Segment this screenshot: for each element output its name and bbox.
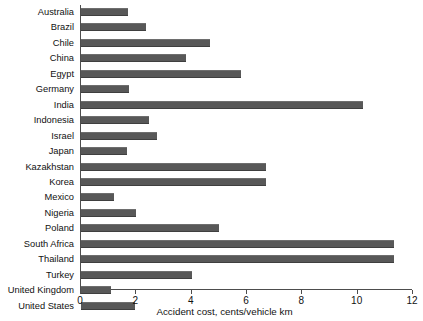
bar bbox=[81, 240, 394, 248]
category-label: Turkey bbox=[46, 268, 74, 283]
bar-row: Brazil bbox=[0, 20, 423, 35]
bar-row: Chile bbox=[0, 36, 423, 51]
bar-row: Korea bbox=[0, 175, 423, 190]
bar bbox=[81, 286, 111, 294]
x-tick bbox=[412, 290, 413, 294]
category-label: South Africa bbox=[24, 237, 74, 252]
bar bbox=[81, 39, 210, 47]
category-label: Kazakhstan bbox=[25, 160, 74, 175]
bar bbox=[81, 193, 114, 201]
x-tick bbox=[80, 290, 81, 294]
x-tick bbox=[135, 290, 136, 294]
bar-row: Kazakhstan bbox=[0, 160, 423, 175]
category-label: India bbox=[54, 98, 74, 113]
category-label: Nigeria bbox=[45, 206, 74, 221]
x-tick-label: 8 bbox=[299, 295, 305, 306]
category-label: United Kingdom bbox=[8, 283, 74, 298]
bar bbox=[81, 147, 127, 155]
bar bbox=[81, 163, 266, 171]
x-tick bbox=[191, 290, 192, 294]
x-tick bbox=[246, 290, 247, 294]
x-tick-label: 4 bbox=[188, 295, 194, 306]
category-label: Egypt bbox=[50, 67, 74, 82]
x-tick-label: 12 bbox=[406, 295, 417, 306]
x-tick-label: 10 bbox=[351, 295, 362, 306]
category-label: Mexico bbox=[45, 190, 74, 205]
bar-row: Australia bbox=[0, 5, 423, 20]
category-label: Australia bbox=[38, 5, 74, 20]
bar bbox=[81, 101, 363, 109]
category-label: Brazil bbox=[51, 20, 74, 35]
plot-area: AustraliaBrazilChileChinaEgyptGermanyInd… bbox=[0, 0, 423, 290]
x-tick bbox=[357, 290, 358, 294]
category-label: Poland bbox=[45, 221, 74, 236]
bar-row: Japan bbox=[0, 144, 423, 159]
x-axis-title-text: Accident cost, cents/vehicle km bbox=[156, 306, 292, 317]
bar-row: Nigeria bbox=[0, 206, 423, 221]
bar bbox=[81, 209, 136, 217]
bar-row: Indonesia bbox=[0, 113, 423, 128]
category-label: Korea bbox=[49, 175, 74, 190]
category-label: Germany bbox=[36, 82, 74, 97]
category-label: Japan bbox=[49, 144, 74, 159]
bar-row: Thailand bbox=[0, 252, 423, 267]
bar bbox=[81, 255, 394, 263]
x-tick-label: 0 bbox=[77, 295, 83, 306]
bar bbox=[81, 85, 129, 93]
bar bbox=[81, 178, 266, 186]
bar bbox=[81, 70, 241, 78]
bar-row: China bbox=[0, 51, 423, 66]
x-tick-label: 2 bbox=[133, 295, 139, 306]
x-tick-label: 6 bbox=[243, 295, 249, 306]
bar bbox=[81, 271, 192, 279]
category-label: Thailand bbox=[38, 252, 74, 267]
bar bbox=[81, 54, 186, 62]
x-tick bbox=[301, 290, 302, 294]
category-label: Indonesia bbox=[34, 113, 74, 128]
bar bbox=[81, 23, 146, 31]
category-label: Israel bbox=[51, 129, 74, 144]
x-axis-title: Accident cost, cents/vehicle km bbox=[0, 306, 423, 317]
bar-row: India bbox=[0, 98, 423, 113]
bar-row: South Africa bbox=[0, 237, 423, 252]
bar bbox=[81, 132, 157, 140]
bar-row: Turkey bbox=[0, 268, 423, 283]
bar-chart: AustraliaBrazilChileChinaEgyptGermanyInd… bbox=[0, 0, 423, 321]
bar-row: Germany bbox=[0, 82, 423, 97]
category-label: Chile bbox=[53, 36, 74, 51]
bar-row: Israel bbox=[0, 129, 423, 144]
bar bbox=[81, 8, 128, 16]
bar-row: Mexico bbox=[0, 190, 423, 205]
category-label: China bbox=[50, 51, 74, 66]
bar-row: Egypt bbox=[0, 67, 423, 82]
bar bbox=[81, 224, 219, 232]
bar bbox=[81, 116, 149, 124]
bar-row: Poland bbox=[0, 221, 423, 236]
